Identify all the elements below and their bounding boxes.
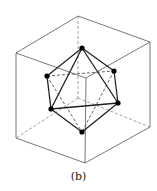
octahedron-hidden-edge: [47, 71, 114, 76]
octahedron-edge: [82, 48, 114, 71]
vertex-dot: [79, 45, 84, 50]
cube-edge: [85, 78, 86, 163]
cube-edge: [85, 127, 150, 163]
figure-caption: (b): [0, 170, 157, 183]
vertex-dot: [44, 73, 49, 78]
cube-hidden-edge: [16, 98, 78, 138]
cube-edge: [16, 53, 86, 78]
cube-edge: [16, 16, 78, 53]
octahedron-edge: [51, 109, 82, 132]
cube-edge: [86, 42, 150, 78]
octahedron-hidden-edge: [47, 76, 82, 132]
vertex-dot: [111, 68, 116, 73]
vertex-dot: [79, 129, 84, 134]
octahedron-edge: [82, 103, 118, 132]
octahedron-visible-edges: [47, 48, 118, 132]
octahedron-edge: [47, 48, 82, 76]
cube-edge: [78, 16, 150, 42]
octahedron-edge: [51, 48, 82, 109]
cube-edge: [16, 138, 85, 163]
octahedron-edge: [82, 48, 118, 103]
vertex-dot: [115, 100, 120, 105]
cube-hidden-edge: [78, 98, 150, 127]
cube-octahedron-diagram: [0, 0, 157, 191]
vertex-dot: [48, 106, 53, 111]
octahedron-hidden-edges: [47, 71, 114, 132]
octahedron-hidden-edge: [82, 71, 114, 132]
octahedron-edge: [51, 103, 118, 109]
cube-visible-edges: [16, 16, 150, 163]
